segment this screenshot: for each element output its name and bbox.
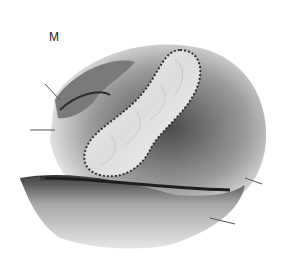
surgical-illustration — [0, 0, 284, 260]
